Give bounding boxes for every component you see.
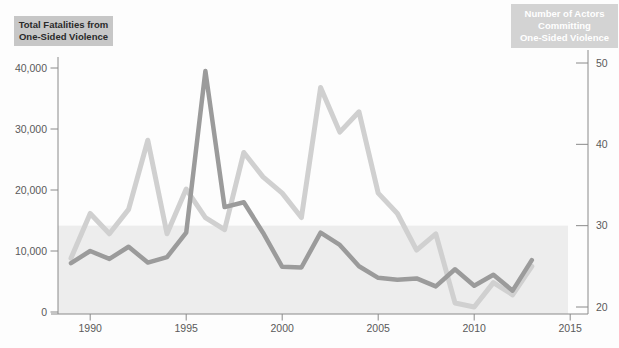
right-axis-title-line1: Number of Actors — [513, 8, 616, 20]
x-axis-tick-label: 1995 — [175, 322, 199, 334]
x-axis-tick-label: 2015 — [559, 322, 583, 334]
left-axis-tick-label: 0 — [41, 306, 47, 318]
x-axis-tick-label: 2005 — [367, 322, 391, 334]
right-axis-tick-label: 30 — [596, 219, 608, 231]
right-axis-title-line2: Committing — [513, 20, 616, 32]
chart-area: Total Fatalities from One-Sided Violence… — [0, 0, 619, 348]
right-axis-tick-label: 40 — [596, 138, 608, 150]
left-axis-title-line2: One-Sided Violence — [16, 31, 111, 43]
dual-axis-line-chart: 010,00020,00030,00040,000203040501990199… — [0, 0, 619, 348]
left-axis-tick-label: 20,000 — [15, 184, 47, 196]
left-axis-tick-label: 40,000 — [15, 62, 47, 74]
highlight-band — [58, 226, 568, 314]
left-axis-tick-label: 30,000 — [15, 123, 47, 135]
right-axis-tick-label: 20 — [596, 301, 608, 313]
left-axis-title-line1: Total Fatalities from — [16, 19, 111, 31]
left-axis-tick-label: 10,000 — [15, 245, 47, 257]
right-axis-title: Number of Actors Committing One-Sided Vi… — [511, 4, 618, 48]
x-axis-tick-label: 2010 — [463, 322, 487, 334]
right-axis-title-line3: One-Sided Violence — [513, 32, 616, 44]
x-axis-tick-label: 2000 — [271, 322, 295, 334]
right-axis-tick-label: 50 — [596, 57, 608, 69]
x-axis-tick-label: 1990 — [79, 322, 103, 334]
left-axis-title: Total Fatalities from One-Sided Violence — [14, 16, 113, 46]
